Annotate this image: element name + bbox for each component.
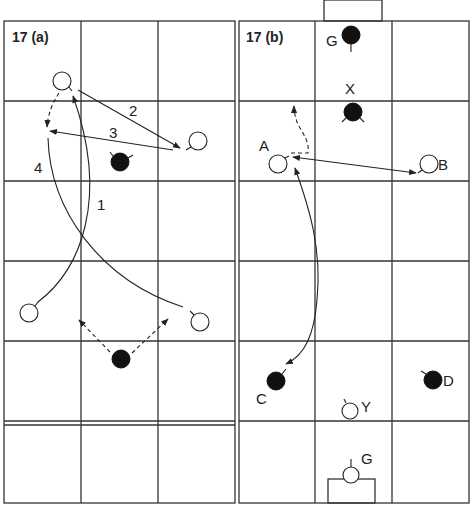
run-path-dashed-left — [79, 320, 110, 352]
player-open-a — [269, 155, 289, 173]
label-d: D — [443, 372, 454, 389]
run-path-dashed-right — [132, 319, 168, 353]
label-x: X — [345, 80, 355, 97]
label-g-bottom: G — [361, 450, 373, 467]
pass-path-a-c — [286, 168, 318, 364]
path-label-4: 4 — [34, 159, 42, 176]
path-label-2: 2 — [129, 102, 137, 119]
player-open-goalkeeper-bottom — [343, 459, 359, 483]
panel-b-label: 17 (b) — [246, 29, 283, 45]
player-open-right — [186, 132, 207, 150]
label-g-top: G — [326, 32, 338, 49]
top-goal — [324, 0, 382, 21]
player-solid-center — [110, 152, 133, 171]
path-label-1: 1 — [97, 196, 105, 213]
label-c: C — [256, 390, 267, 407]
player-open-bottom-left — [20, 302, 38, 322]
pass-path-2 — [78, 90, 180, 148]
player-open-b — [418, 155, 438, 173]
run-path-a-dashed — [291, 106, 308, 153]
run-path-dashed-a — [47, 93, 59, 127]
player-solid-d — [421, 371, 442, 389]
drill-diagram: 17 (a) 2 3 4 1 17 (b) — [0, 0, 472, 506]
player-solid-x — [342, 103, 364, 122]
label-b: B — [438, 156, 448, 173]
path-label-3: 3 — [109, 124, 117, 141]
panel-a-label: 17 (a) — [12, 29, 49, 45]
player-open-y — [342, 399, 358, 419]
label-y: Y — [361, 398, 371, 415]
player-open-top — [53, 72, 72, 91]
player-open-bottom-right — [190, 311, 209, 331]
player-solid-bottom — [112, 350, 130, 368]
panel-a-grid — [4, 21, 235, 503]
panel-b-grid — [239, 0, 469, 503]
pass-path-1 — [38, 96, 90, 302]
label-a: A — [259, 137, 269, 154]
player-solid-c — [267, 369, 286, 390]
pass-path-a-b — [293, 157, 416, 173]
player-solid-goalkeeper-top — [342, 26, 360, 52]
